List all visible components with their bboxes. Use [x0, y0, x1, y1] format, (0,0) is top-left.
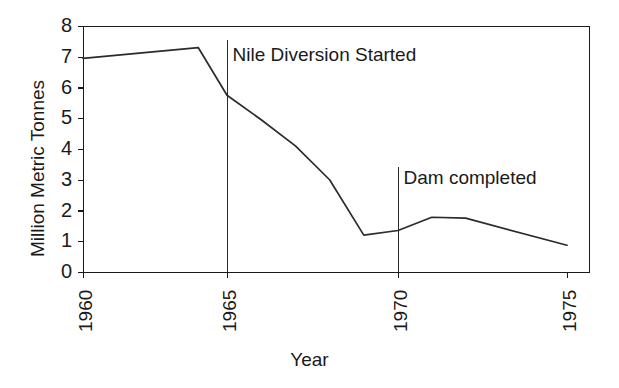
event-marker-lines — [228, 40, 399, 272]
y-axis-tick-label: 0 — [32, 261, 72, 281]
x-axis-tick-label: 1965 — [220, 290, 239, 332]
y-axis-tick-label: 7 — [32, 46, 72, 66]
x-axis-tick-label: 1970 — [391, 290, 410, 332]
annotation-label: Nile Diversion Started — [233, 45, 417, 64]
x-axis-title: Year — [0, 350, 619, 369]
chart-figure: 012345678 1960196519701975 Nile Diversio… — [0, 0, 619, 388]
data-series-line — [83, 48, 567, 246]
annotation-label: Dam completed — [404, 168, 537, 187]
y-axis-title: Million Metric Tonnes — [28, 80, 47, 257]
x-axis-tick-label: 1975 — [560, 290, 579, 332]
y-axis-tick-label: 8 — [32, 15, 72, 35]
x-axis-tick-label: 1960 — [76, 290, 95, 332]
data-series-group — [83, 48, 567, 246]
